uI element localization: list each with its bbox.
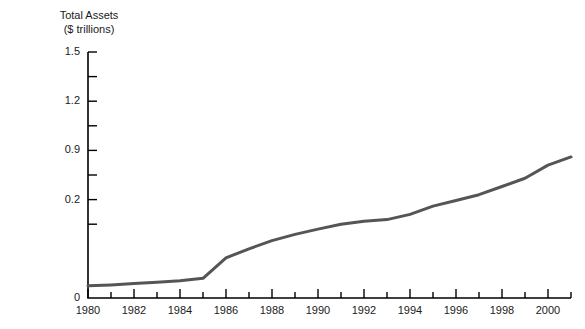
y-axis-ticks [88, 52, 97, 224]
x-tick-label: 1992 [342, 304, 386, 316]
x-tick-label: 1980 [66, 304, 110, 316]
x-tick-label: 1986 [204, 304, 248, 316]
plot-area [0, 0, 585, 329]
x-tick-label: 1984 [158, 304, 202, 316]
data-series [88, 157, 571, 286]
x-tick-label: 2000 [526, 304, 570, 316]
x-tick-label: 1996 [434, 304, 478, 316]
y-tick-label: 0.2 [40, 193, 80, 205]
y-tick-label: 1.5 [40, 45, 80, 57]
x-tick-label: 1988 [250, 304, 294, 316]
x-tick-label: 1998 [480, 304, 524, 316]
x-tick-label: 1990 [296, 304, 340, 316]
y-tick-label: 0.9 [40, 143, 80, 155]
y-tick-label: 1.2 [40, 94, 80, 106]
x-axis-ticks [88, 289, 571, 298]
axis-spines [88, 52, 571, 298]
x-tick-label: 1994 [388, 304, 432, 316]
chart-container: Total Assets ($ trillions) 1.51.20.90.20… [0, 0, 585, 329]
y-tick-label: 0 [40, 291, 80, 303]
series-line-total-assets [88, 157, 571, 286]
x-tick-label: 1982 [112, 304, 156, 316]
axes [88, 52, 571, 298]
